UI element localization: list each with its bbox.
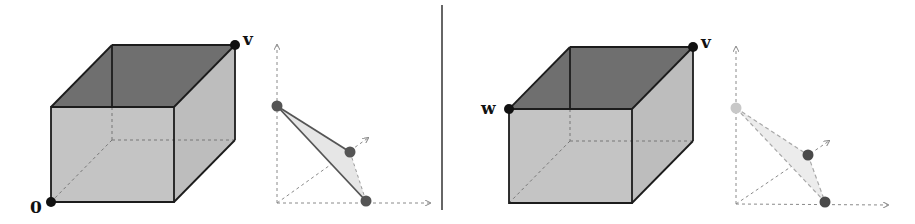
vertex-w <box>504 104 514 114</box>
label-origin: 0 <box>30 197 42 217</box>
diagram-canvas: 0 v <box>0 0 915 224</box>
vertex-v-left <box>230 40 240 50</box>
label-v-right: v <box>700 32 712 52</box>
right-point-bottom <box>820 197 831 208</box>
right-cube: w v <box>480 32 712 203</box>
right-simplex <box>731 47 889 208</box>
label-v-left: v <box>242 29 254 49</box>
left-point-middle <box>345 147 356 158</box>
right-point-middle <box>803 150 814 161</box>
right-point-top-light <box>731 103 742 114</box>
left-cube: 0 v <box>30 29 254 217</box>
label-w: w <box>480 98 496 118</box>
vertex-origin <box>46 197 56 207</box>
vertex-v-right <box>688 42 698 52</box>
left-point-bottom <box>361 196 372 207</box>
left-point-top <box>272 101 283 112</box>
left-simplex <box>272 45 431 207</box>
